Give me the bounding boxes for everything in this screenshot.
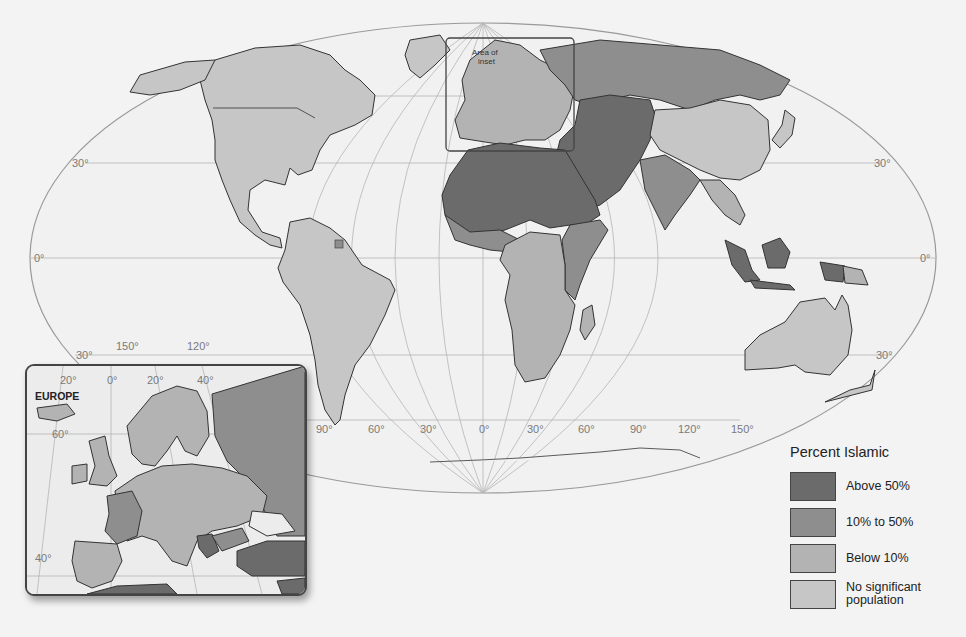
legend-swatch xyxy=(790,544,836,573)
legend-item-10-to-50: 10% to 50% xyxy=(790,504,966,540)
svg-text:0°: 0° xyxy=(479,423,490,435)
svg-text:30°: 30° xyxy=(527,423,544,435)
inset-lat-label: 60° xyxy=(52,428,69,440)
inset-area-label-line2: inset xyxy=(478,57,496,66)
legend-title: Percent Islamic xyxy=(790,444,966,460)
europe-inset: EUROPE 20° 0° 20° 40° 60° 40° xyxy=(25,364,307,596)
svg-text:30°: 30° xyxy=(420,423,437,435)
legend-label-line2: population xyxy=(846,593,904,607)
lat-label-30n-left: 30° xyxy=(72,157,89,169)
legend-label: No significant population xyxy=(846,581,921,607)
inset-lon-label: 40° xyxy=(197,374,214,386)
legend-swatch xyxy=(790,508,836,537)
svg-text:60°: 60° xyxy=(368,423,385,435)
legend: Percent Islamic Above 50% 10% to 50% Bel… xyxy=(790,444,966,612)
lon-label-150w: 150° xyxy=(116,340,139,352)
legend-label: Below 10% xyxy=(846,552,909,565)
legend-item-above-50: Above 50% xyxy=(790,468,966,504)
legend-label-line1: No significant xyxy=(846,580,921,594)
lat-label-30s-left: 30° xyxy=(76,349,93,361)
lat-label-0-left: 0° xyxy=(34,252,45,264)
lat-label-0-right: 0° xyxy=(920,252,931,264)
svg-text:150°: 150° xyxy=(731,423,754,435)
legend-label: 10% to 50% xyxy=(846,516,913,529)
lon-label-120w: 120° xyxy=(187,340,210,352)
svg-text:120°: 120° xyxy=(678,423,701,435)
longitude-labels: 90° 60° 30° 0° 30° 60° 90° 120° 150° xyxy=(316,423,754,435)
inset-area-label-line1: Area of xyxy=(472,48,499,57)
legend-swatch xyxy=(790,472,836,501)
legend-item-no-significant: No significant population xyxy=(790,576,966,612)
svg-text:90°: 90° xyxy=(630,423,647,435)
legend-label: Above 50% xyxy=(846,480,910,493)
lat-label-30n-right: 30° xyxy=(874,157,891,169)
legend-swatch xyxy=(790,580,836,609)
legend-item-below-10: Below 10% xyxy=(790,540,966,576)
lat-label-30s-right: 30° xyxy=(876,349,893,361)
svg-text:60°: 60° xyxy=(578,423,595,435)
inset-lat-label: 40° xyxy=(35,552,52,564)
inset-title: EUROPE xyxy=(35,390,79,402)
inset-lon-label: 0° xyxy=(107,374,118,386)
suriname xyxy=(335,240,343,248)
inset-lon-label: 20° xyxy=(60,374,77,386)
inset-lon-label: 20° xyxy=(147,374,164,386)
svg-text:90°: 90° xyxy=(316,423,333,435)
